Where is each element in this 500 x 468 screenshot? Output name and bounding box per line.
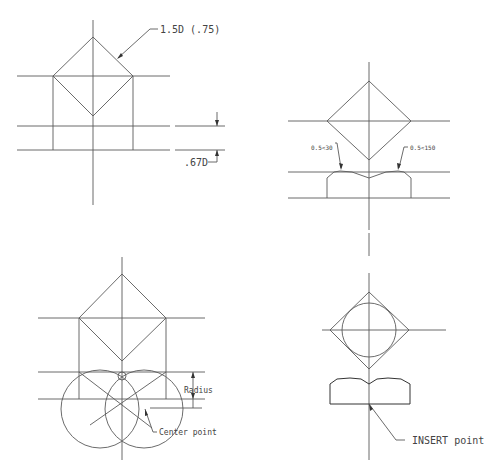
- panel-top-right: 0.5<30 0.5<150: [288, 62, 450, 230]
- chamfer-left-label: 0.5<30: [311, 144, 333, 151]
- leader-line: [369, 404, 405, 440]
- center-point-label: Center point: [159, 428, 217, 437]
- arrowhead-icon: [397, 163, 401, 170]
- diagonal-line: [79, 372, 152, 428]
- radius-label: Radius: [184, 386, 213, 395]
- arrowhead-icon: [145, 409, 148, 416]
- panel-bottom-right: INSERT point: [322, 233, 484, 460]
- square-nut-diamond: [79, 274, 166, 361]
- chamfer-right-label: 0.5<150: [410, 144, 436, 151]
- arrowhead-icon: [339, 163, 343, 170]
- leader-line: [118, 29, 158, 58]
- insert-point-label: INSERT point: [412, 435, 484, 446]
- nut-profile: [330, 378, 410, 404]
- panel-top-left: 1.5D (.75) .67D: [17, 20, 225, 205]
- diagonal-line: [90, 372, 166, 425]
- arrowhead-icon: [191, 372, 195, 378]
- leader-line: [145, 409, 157, 432]
- panel-bottom-left: Radius Center point: [38, 257, 217, 460]
- arrowhead-icon: [215, 150, 219, 156]
- arrowhead-icon: [369, 404, 373, 411]
- cad-drawing: 1.5D (.75) .67D 0.5<30 0.5<150: [0, 0, 500, 468]
- arrowhead-icon: [215, 120, 219, 126]
- height-label: .67D: [184, 157, 208, 168]
- diameter-label: 1.5D (.75): [160, 24, 220, 35]
